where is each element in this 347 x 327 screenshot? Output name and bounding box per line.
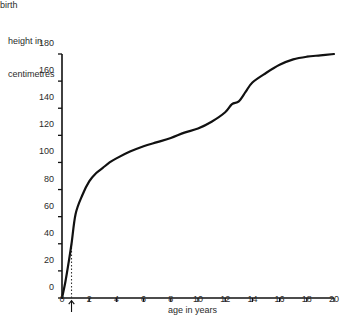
y-tick-label: 180 bbox=[14, 38, 54, 48]
y-tick-label: 80 bbox=[14, 174, 54, 184]
y-tick-label: 60 bbox=[14, 201, 54, 211]
x-tick-label: 2 bbox=[74, 294, 104, 304]
y-tick-label: 160 bbox=[14, 65, 54, 75]
y-tick-label: 100 bbox=[14, 146, 54, 156]
x-tick-label: 16 bbox=[265, 294, 295, 304]
x-tick-label: 8 bbox=[156, 294, 186, 304]
y-tick-label: 140 bbox=[14, 92, 54, 102]
growth-curve-line bbox=[62, 54, 334, 298]
x-tick-label: 0 bbox=[47, 294, 77, 304]
y-tick-label: 120 bbox=[14, 119, 54, 129]
y-axis-title: height in centimetres bbox=[8, 14, 55, 102]
birth-annotation-label: birth bbox=[0, 0, 347, 10]
x-tick-label: 12 bbox=[210, 294, 240, 304]
growth-chart: height in centimetres age in years birth… bbox=[0, 0, 347, 327]
x-axis-title: age in years bbox=[168, 305, 217, 316]
y-tick-label: 40 bbox=[14, 228, 54, 238]
y-tick-label: 0 bbox=[14, 282, 54, 292]
x-tick-label: 10 bbox=[183, 294, 213, 304]
x-tick-label: 18 bbox=[292, 294, 322, 304]
y-tick-label: 20 bbox=[14, 255, 54, 265]
x-tick-label: 14 bbox=[237, 294, 267, 304]
x-tick-label: 4 bbox=[101, 294, 131, 304]
x-tick-label: 20 bbox=[319, 294, 347, 304]
x-tick-label: 6 bbox=[129, 294, 159, 304]
